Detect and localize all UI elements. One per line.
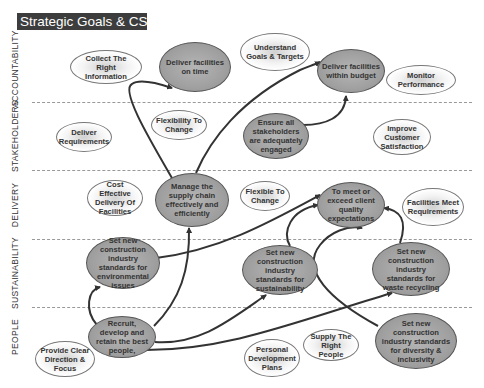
node-label: Cost Effective Delivery Of Facilities (88, 180, 142, 216)
goal-manage-supply-chain: Manage the supply chain effectively and … (155, 173, 229, 227)
csf-deliver-requirements: Deliver Requirements (56, 122, 112, 152)
goal-standards-diversity: Set new construction industry standards … (375, 313, 457, 369)
node-label: Ensure all stakeholders are adequately e… (244, 118, 308, 154)
csf-facilities-meet-requirements: Facilities Meet Requirements (402, 188, 464, 226)
csf-flexible-to-change: Flexible To Change (240, 181, 290, 211)
node-label: Set new construction industry standards … (376, 319, 456, 364)
arrow-ensure-to-budget (303, 96, 346, 125)
node-label: Supply The Right People (304, 332, 358, 359)
node-label: Set new construction industry standards … (87, 236, 159, 290)
goal-meet-client-quality: To meet or exceed client quality expecta… (317, 182, 385, 228)
node-label: Deliver facilities on time (160, 58, 230, 76)
goal-standards-waste-recycling: Set new construction industry standards … (372, 242, 450, 296)
node-label: Deliver facilities within budget (318, 62, 384, 80)
goal-recruit-develop-retain: Recruit, develop and retain the best peo… (88, 316, 156, 358)
csf-monitor-performance: Monitor Performance (386, 65, 456, 95)
node-label: Collect The Right Information (71, 54, 141, 81)
csf-personal-development-plans: Personal Development Plans (244, 339, 300, 377)
node-label: Recruit, develop and retain the best peo… (89, 319, 155, 355)
node-label: To meet or exceed client quality expecta… (318, 187, 384, 223)
csf-collect-right-information: Collect The Right Information (70, 50, 142, 84)
node-label: Provide Clear Direction & Focus (36, 346, 94, 373)
node-label: Flexibility To Change (152, 116, 206, 134)
csf-provide-clear-direction: Provide Clear Direction & Focus (35, 341, 95, 377)
goal-ensure-stakeholders-engaged: Ensure all stakeholders are adequately e… (243, 113, 309, 159)
arrow-waste-to-quality (384, 208, 403, 243)
node-label: Manage the supply chain effectively and … (156, 182, 228, 218)
node-label: Set new construction industry standards … (373, 247, 449, 292)
arrow-div-to-quality (314, 227, 378, 326)
goal-deliver-within-budget: Deliver facilities within budget (317, 49, 385, 93)
node-label: Deliver Requirements (55, 128, 114, 146)
arrow-recruit-to-manage (154, 228, 189, 326)
goal-deliver-on-time: Deliver facilities on time (159, 42, 231, 92)
node-label: Flexible To Change (241, 187, 289, 205)
node-label: Monitor Performance (387, 71, 455, 89)
csf-understand-goals: Understand Goals & Targets (240, 33, 310, 71)
csf-supply-right-people: Supply The Right People (303, 329, 359, 361)
csf-flexibility-to-change: Flexibility To Change (151, 110, 207, 140)
node-label: Understand Goals & Targets (241, 43, 309, 61)
goal-standards-sustainability: Set new construction industry standards … (242, 245, 318, 295)
csf-improve-customer-satisfaction: Improve Customer Satisfaction (373, 119, 431, 155)
node-label: Set new construction industry standards … (243, 248, 317, 293)
node-label: Personal Development Plans (244, 345, 300, 372)
node-label: Improve Customer Satisfaction (374, 124, 430, 151)
node-label: Facilities Meet Requirements (403, 198, 463, 216)
goal-standards-environmental: Set new construction industry standards … (86, 237, 160, 289)
csf-cost-effective-delivery: Cost Effective Delivery Of Facilities (87, 180, 143, 216)
